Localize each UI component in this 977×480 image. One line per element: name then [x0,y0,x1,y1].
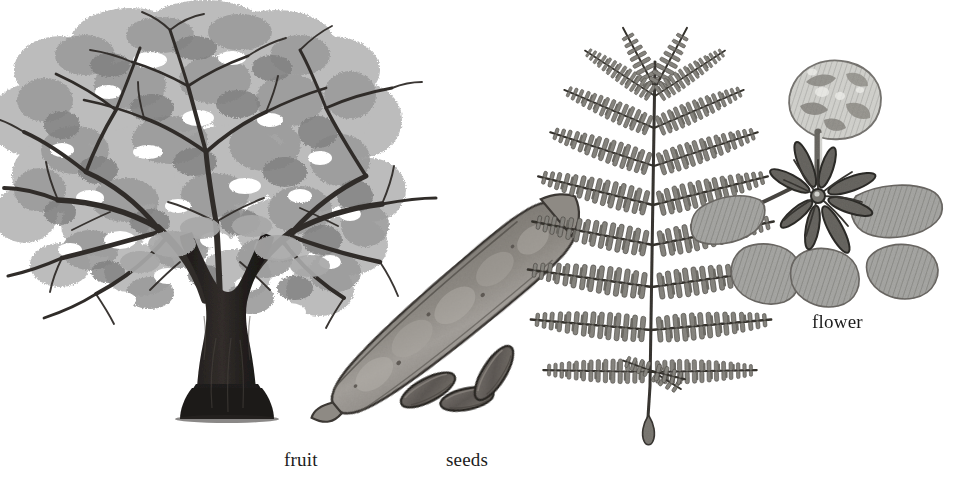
label-fruit: fruit [284,449,318,471]
label-seeds: seeds [446,449,488,471]
botanical-plate: fruit seeds flower [0,0,977,480]
label-flower: flower [812,311,863,333]
illustration-canvas [0,0,977,480]
